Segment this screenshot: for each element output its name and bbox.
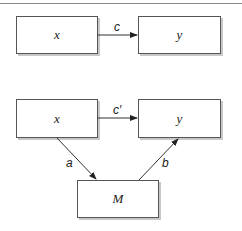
labels-layer: c c′ a b bbox=[0, 0, 242, 231]
label-b: b bbox=[162, 156, 169, 170]
label-c-prime: c′ bbox=[113, 103, 122, 117]
label-a: a bbox=[66, 156, 73, 170]
label-c: c bbox=[114, 20, 120, 34]
